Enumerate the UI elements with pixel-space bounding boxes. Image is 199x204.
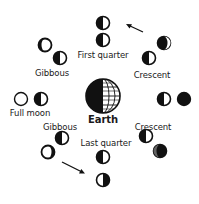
moon-last-quarter-inner-icon (97, 151, 110, 164)
label-gibbous-bottom: Gibbous (43, 123, 77, 132)
moon-crescent-top-inner-icon (143, 52, 156, 65)
orbit-direction-arrow-top-icon (126, 24, 143, 32)
label-first-quarter: First quarter (78, 51, 129, 60)
moon-first-quarter-inner-icon (97, 34, 110, 47)
label-crescent-top: Crescent (134, 71, 171, 80)
moon-gibbous-bottom-outer-icon (42, 146, 55, 159)
label-full-moon: Full moon (10, 109, 50, 118)
moon-crescent-bottom-outer-icon (154, 145, 167, 158)
moon-last-quarter-outer-icon (97, 174, 110, 187)
moon-new-outer-icon (178, 93, 191, 106)
earth-globe-icon (86, 79, 120, 113)
label-crescent-bottom: Crescent (135, 123, 172, 132)
moon-full-outer-icon (15, 93, 28, 106)
moon-gibbous-top-outer-icon (39, 39, 52, 52)
orbit-direction-arrow-bottom-icon (62, 162, 85, 174)
label-last-quarter: Last quarter (81, 139, 132, 148)
label-earth: Earth (88, 115, 118, 125)
moon-first-quarter-outer-icon (97, 17, 110, 30)
diagram-canvas (0, 0, 199, 204)
label-gibbous-top: Gibbous (35, 69, 69, 78)
moon-full-inner-icon (35, 93, 48, 106)
moon-phases-diagram: First quarter Gibbous Crescent Full moon… (0, 0, 199, 204)
moon-crescent-top-outer-icon (158, 37, 171, 50)
moon-new-inner-icon (158, 93, 171, 106)
moon-gibbous-top-inner-icon (54, 52, 67, 65)
moon-gibbous-bottom-inner-icon (56, 132, 69, 145)
